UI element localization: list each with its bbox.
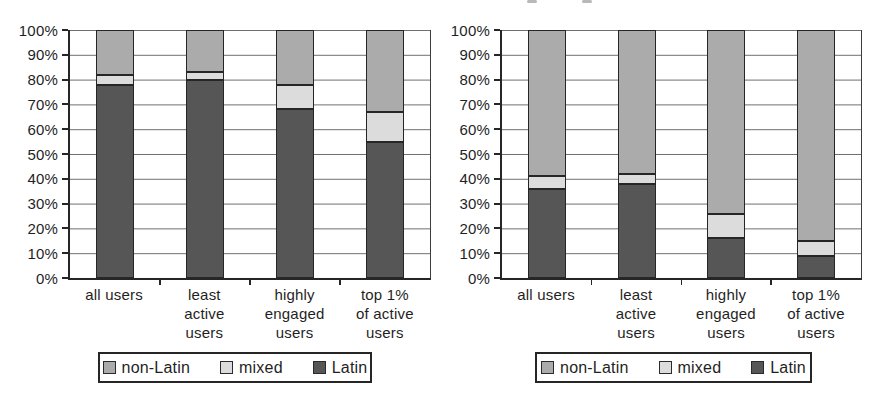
y-tick-label: 60% [27,121,58,138]
y-tick-label: 90% [459,46,490,63]
category-label: all users [69,285,159,304]
bar-segment-mixed [618,174,656,184]
y-tick-label: 20% [27,220,58,237]
chart-left-panel: 100%90%80%70%60%50%40%30%20%10%0% all us… [0,0,437,407]
y-axis: 100%90%80%70%60%50%40%30%20%10%0% [437,30,500,278]
legend-item: non-Latin [103,359,191,377]
plot-area [68,30,431,280]
y-tick: 20% [437,219,500,237]
category-labels: all usersleast active usershighly engage… [69,285,430,347]
bar-segment-mixed [528,176,566,188]
y-tick: 30% [0,195,68,213]
y-tick: 80% [437,71,500,89]
y-tick-label: 50% [459,146,490,163]
stacked-bar [528,30,566,278]
y-tick-label: 10% [27,245,58,262]
y-tick: 60% [0,120,68,138]
legend: non-LatinmixedLatin [98,352,372,383]
chart-right-panel: 100%90%80%70%60%50%40%30%20%10%0% all us… [437,0,875,407]
y-tick: 0% [437,269,500,287]
legend-swatch-icon [313,361,326,374]
bar-segment-mixed [96,75,134,85]
y-tick: 50% [0,145,68,163]
category-label: all users [501,285,591,304]
y-tick: 10% [437,244,500,262]
bar-segment-mixed [366,112,404,142]
legend-label: mixed [239,359,283,377]
plot-area [500,30,862,280]
bar-segment-non-latin [96,30,134,75]
y-tick-label: 100% [451,22,490,39]
legend-label: non-Latin [122,359,191,377]
y-axis: 100%90%80%70%60%50%40%30%20%10%0% [0,30,68,278]
stacked-bar [366,30,404,278]
bar-segment-non-latin [528,30,566,176]
y-tick: 70% [0,95,68,113]
y-tick: 80% [0,71,68,89]
y-tick-label: 50% [27,146,58,163]
y-tick: 40% [0,170,68,188]
bar-segment-latin [797,256,835,278]
stacked-bar [797,30,835,278]
legend: non-LatinmixedLatin [535,352,812,383]
category-labels: all usersleast active usershighly engage… [501,285,861,347]
y-tick: 30% [437,195,500,213]
legend-label: Latin [332,359,368,377]
y-tick-label: 30% [459,195,490,212]
y-tick-label: 30% [27,195,58,212]
y-tick: 20% [0,219,68,237]
y-tick-label: 40% [459,170,490,187]
legend-item: Latin [313,359,368,377]
bar-segment-mixed [707,214,745,239]
legend-item: non-Latin [541,359,629,377]
bars [70,30,430,278]
bar-segment-latin [276,109,314,278]
legend-swatch-icon [103,361,116,374]
bar-segment-mixed [186,72,224,79]
y-tick-label: 60% [459,121,490,138]
figure: 100%90%80%70%60%50%40%30%20%10%0% all us… [0,0,875,407]
y-tick: 90% [437,46,500,64]
bar-segment-non-latin [366,30,404,112]
legend-label: Latin [770,359,806,377]
y-tick: 10% [0,244,68,262]
bar-segment-latin [366,142,404,278]
bar-segment-non-latin [276,30,314,85]
y-tick: 40% [437,170,500,188]
legend-swatch-icon [220,361,233,374]
bars [502,30,861,278]
stacked-bar [618,30,656,278]
bar-segment-non-latin [707,30,745,214]
legend-label: non-Latin [560,359,629,377]
category-label: least active users [159,285,249,342]
category-label: least active users [591,285,681,342]
bar-segment-latin [186,80,224,278]
y-tick-label: 20% [459,220,490,237]
legend-item: mixed [220,359,283,377]
legend-swatch-icon [659,361,672,374]
stacked-bar [186,30,224,278]
legend-item: Latin [751,359,806,377]
y-tick-label: 100% [19,22,58,39]
y-tick: 90% [0,46,68,64]
y-tick-label: 90% [27,46,58,63]
y-tick-label: 0% [468,270,490,287]
y-tick: 100% [437,21,500,39]
bar-segment-latin [618,184,656,278]
bar-segment-non-latin [618,30,656,174]
bar-segment-mixed [276,85,314,110]
legend-swatch-icon [541,361,554,374]
bar-segment-latin [707,238,745,278]
stacked-bar [707,30,745,278]
y-tick: 100% [0,21,68,39]
y-tick-label: 80% [27,71,58,88]
legend-label: mixed [678,359,722,377]
bar-segment-non-latin [797,30,835,241]
bar-segment-latin [96,85,134,278]
category-label: highly engaged users [250,285,340,342]
legend-swatch-icon [751,361,764,374]
stacked-bar [276,30,314,278]
y-tick-label: 70% [459,96,490,113]
y-tick-label: 0% [36,270,58,287]
bar-segment-non-latin [186,30,224,72]
